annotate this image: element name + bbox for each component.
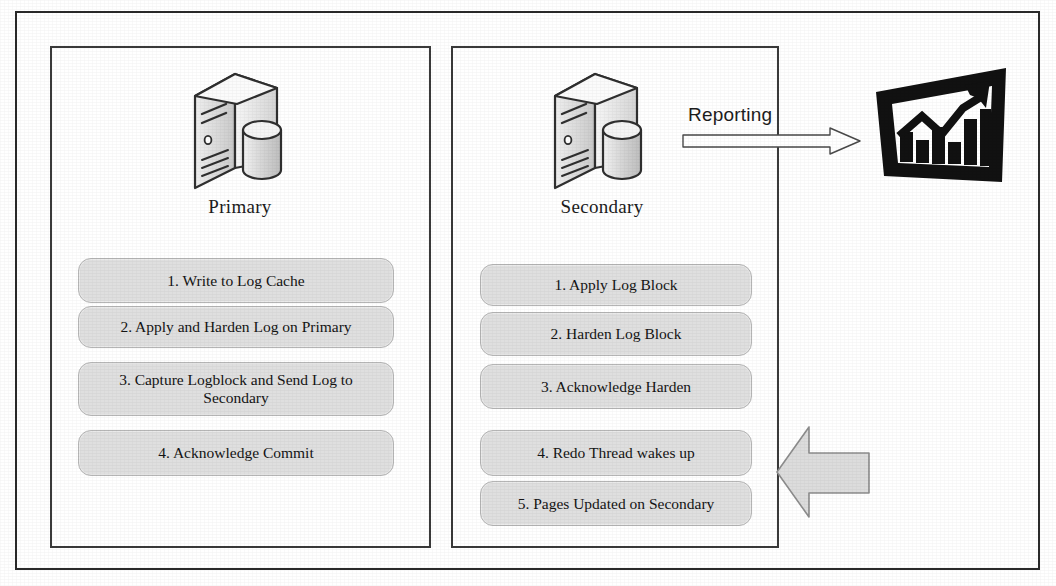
secondary-label: Secondary (492, 196, 712, 218)
secondary-step-3[interactable]: 3. Acknowledge Harden (480, 364, 752, 409)
redo-block-arrow-icon (775, 421, 871, 523)
secondary-step-2[interactable]: 2. Harden Log Block (480, 312, 752, 356)
secondary-server-icon (541, 64, 659, 192)
primary-server-icon (181, 64, 299, 192)
reporting-arrow-icon (682, 126, 862, 156)
primary-step-2[interactable]: 2. Apply and Harden Log on Primary (78, 306, 394, 348)
primary-step-3[interactable]: 3. Capture Logblock and Send Log to Seco… (78, 362, 394, 416)
primary-label: Primary (130, 196, 350, 218)
bar-chart-growth-icon (866, 64, 1012, 190)
reporting-label: Reporting (688, 104, 838, 126)
secondary-step-1[interactable]: 1. Apply Log Block (480, 264, 752, 306)
primary-step-4[interactable]: 4. Acknowledge Commit (78, 430, 394, 476)
primary-step-1[interactable]: 1. Write to Log Cache (78, 258, 394, 303)
diagram-canvas: Primary 1. Write to Log Cache 2. Apply a… (0, 0, 1056, 586)
secondary-step-5[interactable]: 5. Pages Updated on Secondary (480, 481, 752, 526)
secondary-step-4[interactable]: 4. Redo Thread wakes up (480, 430, 752, 476)
